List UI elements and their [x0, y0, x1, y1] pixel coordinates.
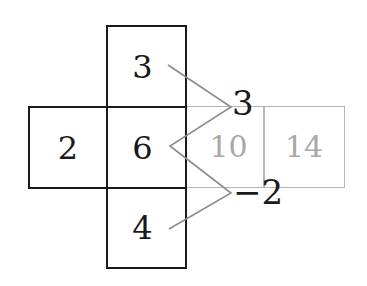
- cube-net-diagram: 10 14 3 2 6 4 3 −2: [0, 0, 367, 286]
- face-center-value: 6: [132, 132, 152, 164]
- face-left: 2: [28, 106, 108, 189]
- face-bottom-value: 4: [132, 212, 152, 244]
- face-top: 3: [106, 25, 187, 108]
- operation-label-lower: −2: [233, 175, 283, 209]
- ghost-face-14-value: 14: [285, 132, 323, 162]
- operation-label-upper: 3: [232, 86, 254, 120]
- face-center: 6: [106, 106, 187, 189]
- face-top-value: 3: [132, 51, 152, 83]
- ghost-face-10-value: 10: [209, 132, 247, 162]
- face-bottom: 4: [106, 187, 187, 269]
- face-left-value: 2: [58, 132, 78, 164]
